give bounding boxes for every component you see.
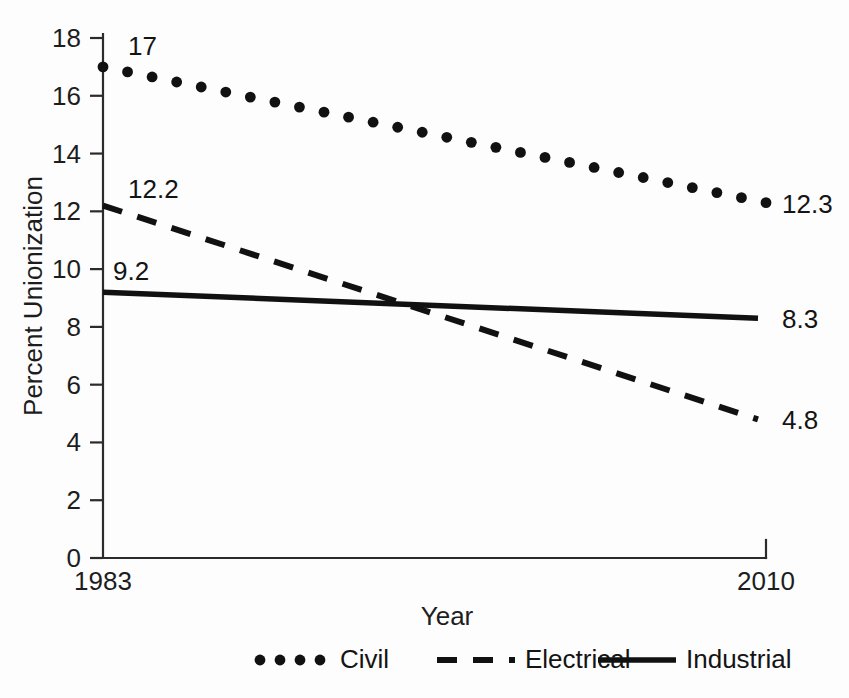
- series-layer: [98, 61, 772, 419]
- x-tick-label-end: 2010: [737, 566, 795, 596]
- y-tick-label-14: 14: [52, 139, 81, 169]
- y-tick-label-10: 10: [52, 254, 81, 284]
- legend-label-industrial: Industrial: [686, 644, 792, 674]
- civil-data-dot: [147, 72, 158, 83]
- y-tick-label-8: 8: [67, 312, 81, 342]
- civil-data-dot: [294, 102, 305, 113]
- civil-data-dot: [711, 187, 722, 198]
- civil-data-dot: [638, 172, 649, 183]
- civil-data-dot: [196, 82, 207, 93]
- civil-end-value-label: 12.3: [782, 189, 833, 219]
- civil-data-dot: [220, 87, 231, 98]
- civil-data-dot: [122, 67, 133, 78]
- legend-swatch-dotted: [255, 655, 326, 666]
- y-tick-label-16: 16: [52, 81, 81, 111]
- civil-data-dot: [687, 182, 698, 193]
- civil-data-dot: [392, 122, 403, 133]
- civil-data-dot: [564, 157, 575, 168]
- industrial-start-value-label: 9.2: [113, 256, 149, 286]
- y-tick-label-12: 12: [52, 196, 81, 226]
- civil-data-dot: [245, 92, 256, 103]
- civil-data-dot: [98, 61, 109, 72]
- start-value-labels: 17 12.2 9.2: [113, 31, 179, 286]
- end-value-labels: 12.3 8.3 4.8: [782, 189, 833, 436]
- civil-data-dot: [417, 127, 428, 138]
- electrical-start-value-label: 12.2: [128, 174, 179, 204]
- y-tick-label-2: 2: [67, 485, 81, 515]
- y-tick-label-6: 6: [67, 370, 81, 400]
- y-tick-label-4: 4: [67, 427, 81, 457]
- series-civil: [98, 61, 772, 208]
- chart-container: 181614121086420 1983 2010 Year Percent U…: [0, 0, 849, 698]
- civil-data-dot: [490, 142, 501, 153]
- civil-data-dot: [319, 107, 330, 118]
- civil-data-dot: [540, 152, 551, 163]
- civil-data-dot: [589, 162, 600, 173]
- civil-data-dot: [269, 97, 280, 108]
- civil-data-dot: [662, 177, 673, 188]
- x-axis-title: Year: [421, 601, 474, 631]
- y-axis-ticks: 181614121086420: [52, 23, 103, 573]
- electrical-end-value-label: 4.8: [782, 405, 818, 435]
- civil-data-dot: [761, 197, 772, 208]
- civil-data-dot: [613, 167, 624, 178]
- civil-data-dot: [368, 117, 379, 128]
- y-axis-title: Percent Unionization: [18, 176, 48, 416]
- unionization-line-chart: 181614121086420 1983 2010 Year Percent U…: [0, 0, 849, 698]
- civil-data-dot: [441, 132, 452, 143]
- civil-start-value-label: 17: [128, 31, 157, 61]
- y-tick-label-18: 18: [52, 23, 81, 53]
- chart-legend: CivilElectricalIndustrial: [255, 644, 792, 674]
- series-industrial: [103, 292, 758, 318]
- civil-data-dot: [466, 137, 477, 148]
- x-axis-ticks: 1983 2010: [74, 566, 795, 596]
- industrial-end-value-label: 8.3: [782, 304, 818, 334]
- civil-data-dot: [736, 192, 747, 203]
- civil-data-dot: [171, 77, 182, 88]
- legend-label-civil: Civil: [340, 644, 389, 674]
- x-tick-label-start: 1983: [74, 566, 132, 596]
- civil-data-dot: [343, 112, 354, 123]
- legend-item-civil[interactable]: Civil: [255, 644, 390, 674]
- civil-data-dot: [515, 147, 526, 158]
